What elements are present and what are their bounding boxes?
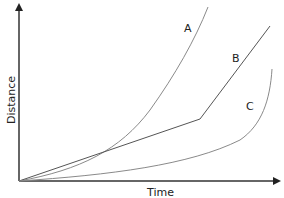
curve-b (19, 26, 270, 181)
distance-time-diagram: A B C Time Distance (0, 0, 284, 198)
y-axis-label: Distance (5, 76, 18, 124)
curve-c-label: C (246, 100, 254, 113)
curve-a-label: A (184, 22, 192, 35)
curve-c (19, 69, 272, 181)
curve-a (19, 7, 208, 181)
curve-b-label: B (232, 52, 240, 65)
x-axis-label: Time (146, 186, 174, 198)
